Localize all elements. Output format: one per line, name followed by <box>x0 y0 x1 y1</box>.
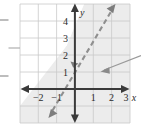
y-tick-label-4: 4 <box>63 16 68 27</box>
x-tick-label-neg2: −2 <box>33 92 44 103</box>
x-tick-label-3: 3 <box>124 92 129 103</box>
y-tick-label-3: 3 <box>63 33 68 44</box>
x-tick-label-neg1: −1 <box>51 92 62 103</box>
cropped-callout-box <box>0 20 20 76</box>
y-tick-label-1: 1 <box>63 67 68 78</box>
x-axis-label: x <box>131 92 137 103</box>
graph-canvas: 4 3 2 1 −2 −1 1 2 3 y x <box>0 0 141 127</box>
y-axis-label: y <box>79 7 85 18</box>
y-tick-label-2: 2 <box>63 50 68 61</box>
x-tick-label-1: 1 <box>91 92 96 103</box>
x-tick-label-2: 2 <box>109 92 114 103</box>
linear-inequality-graph: 4 3 2 1 −2 −1 1 2 3 y x <box>0 0 141 127</box>
